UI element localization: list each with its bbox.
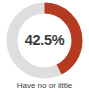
donut-chart-widget: 42.5% Have no or little xyxy=(0,0,89,93)
donut-chart: 42.5% xyxy=(6,2,83,79)
donut-caption: Have no or little xyxy=(0,81,89,91)
donut-svg xyxy=(6,2,83,79)
